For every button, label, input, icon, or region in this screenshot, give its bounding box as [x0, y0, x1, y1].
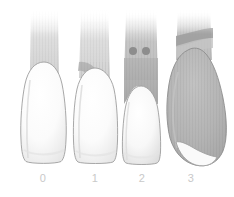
specimen-grade-2 [122, 10, 160, 165]
perforation-dot-right [142, 47, 150, 55]
crown-2 [122, 86, 160, 165]
crown-1 [73, 68, 117, 164]
crown-0 [21, 62, 67, 163]
specimen-label-1: 1 [85, 172, 105, 184]
perforation-dot-left [129, 47, 137, 55]
diagram-canvas [0, 0, 234, 197]
specimen-label-3: 3 [181, 172, 201, 184]
furcation-diagram: 0 1 2 3 [0, 0, 234, 197]
specimen-label-0: 0 [33, 172, 53, 184]
specimen-label-2: 2 [132, 172, 152, 184]
